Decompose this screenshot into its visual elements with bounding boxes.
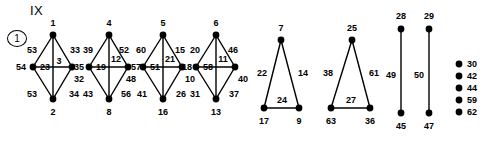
g2-edge-extra-right-label: 48 xyxy=(126,74,136,84)
t1-edge-left-label: 22 xyxy=(257,68,267,78)
g2-edge-top-left-label: 39 xyxy=(83,45,93,55)
g4-vertex-right-label: 40 xyxy=(238,74,248,84)
t1-edge-base-label: 24 xyxy=(277,95,287,105)
isolated-vertex-label-4: 62 xyxy=(467,107,477,117)
g2-vertex-top-dot xyxy=(106,32,113,39)
g4-edge-top-left-label: 20 xyxy=(190,45,200,55)
g3-edge-horizontal-label: 51 xyxy=(150,62,160,72)
t2-vertex-right-label: 36 xyxy=(365,116,375,126)
g3-vertex-right-label: 10 xyxy=(185,74,195,84)
g1-edge-bottom-left-label: 53 xyxy=(27,89,37,99)
g4-vertex-bottom-dot xyxy=(213,96,220,103)
s2-vertex-top-label: 29 xyxy=(424,11,434,21)
g2-vertex-top-label: 4 xyxy=(106,18,111,28)
t1-vertex-right-dot xyxy=(296,105,303,112)
g4-vertex-bottom-label: 13 xyxy=(211,107,221,117)
g4-edge-vertical-label: 11 xyxy=(218,54,228,64)
g3-edge-vertical-label: 21 xyxy=(165,54,175,64)
isolated-vertex-label-2: 44 xyxy=(467,83,477,93)
g4-edge-horizontal-label: 58 xyxy=(203,62,213,72)
s1-vertex-top-label: 28 xyxy=(396,11,406,21)
s2-vertex-bottom-label: 47 xyxy=(424,121,434,131)
g2-vertex-left-dot xyxy=(86,64,93,71)
graph-plate-figure: IX 1 xyxy=(0,0,496,141)
s1-vertex-bottom-dot xyxy=(398,110,405,117)
t2-edge-left-label: 38 xyxy=(323,68,333,78)
g4-vertex-left-label: 18 xyxy=(182,62,192,72)
labels-group: 1 54 32 2 53 33 23 3 53 34 4 35 57 8 39 … xyxy=(16,11,477,131)
g2-edge-bottom-left-label: 43 xyxy=(83,89,93,99)
g1-vertex-left-label: 54 xyxy=(16,62,26,72)
g1-vertex-top-dot xyxy=(50,32,57,39)
g2-edge-vertical-label: 12 xyxy=(111,54,121,64)
g3-vertex-top-dot xyxy=(160,32,167,39)
t1-vertex-left-dot xyxy=(261,105,268,112)
s2-vertex-bottom-dot xyxy=(426,110,433,117)
g1-vertex-bottom-label: 2 xyxy=(50,107,55,117)
g4-vertex-left-dot xyxy=(193,64,200,71)
g3-edge-top-right-label: 15 xyxy=(175,45,185,55)
t2-edge-right-label: 61 xyxy=(369,68,379,78)
isolated-vertex-dot-2 xyxy=(456,85,463,92)
t2-vertex-apex-dot xyxy=(349,37,356,44)
g3-vertex-bottom-dot xyxy=(160,96,167,103)
t2-vertex-left-label: 63 xyxy=(326,116,336,126)
g1-vertex-right-label: 32 xyxy=(74,74,84,84)
isolated-vertex-dot-0 xyxy=(456,61,463,68)
s1-edge-segment-label: 49 xyxy=(386,70,396,80)
t1-vertex-apex-dot xyxy=(278,37,285,44)
g1-vertex-top-label: 1 xyxy=(50,18,55,28)
t1-vertex-right-label: 9 xyxy=(296,116,301,126)
g3-vertex-bottom-label: 16 xyxy=(158,107,168,117)
g2-vertex-right-label: 57 xyxy=(131,62,141,72)
g4-edge-bottom-right-label: 37 xyxy=(229,89,239,99)
g4-edge-bottom-left-label: 31 xyxy=(190,89,200,99)
g1-vertex-bottom-dot xyxy=(50,96,57,103)
graph-1-edges xyxy=(33,35,72,99)
graph-diagram-svg: 1 54 32 2 53 33 23 3 53 34 4 35 57 8 39 … xyxy=(0,0,496,141)
g1-vertex-left-dot xyxy=(30,64,37,71)
g1-edge-bottom-right-label: 34 xyxy=(69,89,79,99)
g3-edge-bottom-right-label: 26 xyxy=(176,89,186,99)
t1-edge-right-label: 14 xyxy=(298,68,308,78)
g4-vertex-top-dot xyxy=(213,32,220,39)
g1-edge-vertical-label: 3 xyxy=(56,56,61,66)
s1-vertex-bottom-label: 45 xyxy=(396,121,406,131)
t1-vertex-left-label: 17 xyxy=(259,116,269,126)
g1-edge-horizontal-label: 23 xyxy=(40,62,50,72)
g2-edge-bottom-right-label: 56 xyxy=(121,89,131,99)
isolated-vertex-dot-3 xyxy=(456,97,463,104)
isolated-vertex-label-3: 59 xyxy=(467,95,477,105)
s1-vertex-top-dot xyxy=(398,26,405,33)
vertex-dots-group xyxy=(30,26,463,117)
isolated-vertex-label-0: 30 xyxy=(467,59,477,69)
t2-vertex-left-dot xyxy=(328,105,335,112)
g3-edge-top-left-label: 60 xyxy=(136,45,146,55)
s2-vertex-top-dot xyxy=(426,26,433,33)
t1-vertex-apex-label: 7 xyxy=(278,23,283,33)
t2-vertex-right-dot xyxy=(367,105,374,112)
g3-vertex-top-label: 5 xyxy=(160,18,165,28)
g2-edge-horizontal-label: 19 xyxy=(96,62,106,72)
g1-edge-top-right-label: 33 xyxy=(70,45,80,55)
isolated-vertex-dot-4 xyxy=(456,109,463,116)
g4-edge-top-right-label: 46 xyxy=(228,45,238,55)
g1-edge-top-left-label: 53 xyxy=(27,45,37,55)
g2-vertex-bottom-dot xyxy=(106,96,113,103)
t2-vertex-apex-label: 25 xyxy=(347,23,357,33)
isolated-vertex-label-1: 42 xyxy=(467,71,477,81)
isolated-vertex-dot-1 xyxy=(456,73,463,80)
g4-vertex-right-dot xyxy=(232,64,239,71)
s2-edge-segment-label: 50 xyxy=(414,70,424,80)
g4-vertex-top-label: 6 xyxy=(213,18,218,28)
g2-vertex-left-label: 35 xyxy=(74,62,84,72)
g2-vertex-bottom-label: 8 xyxy=(106,107,111,117)
g3-edge-bottom-left-label: 41 xyxy=(137,89,147,99)
t2-edge-base-label: 27 xyxy=(346,95,356,105)
